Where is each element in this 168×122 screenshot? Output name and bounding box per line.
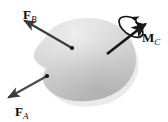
force-a-subscript: A — [23, 111, 29, 121]
force-b-subscript: B — [31, 14, 37, 24]
moment-c-label: MC — [142, 29, 160, 45]
force-b-application-point — [70, 46, 74, 50]
force-b-label: FB — [23, 6, 36, 22]
force-b-symbol: F — [23, 7, 31, 22]
force-a-application-point — [45, 74, 49, 78]
force-a-symbol: F — [15, 104, 23, 119]
rigid-body — [34, 18, 136, 101]
figure-container: FB FA MC — [0, 0, 168, 122]
moment-c-symbol: M — [142, 30, 154, 45]
force-a-label: FA — [15, 103, 28, 119]
moment-c-subscript: C — [154, 37, 160, 47]
force-a-vector — [9, 74, 50, 98]
